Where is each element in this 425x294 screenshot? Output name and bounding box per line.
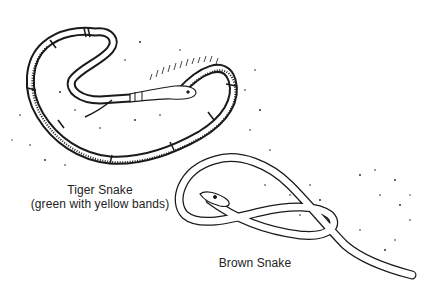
tiger-snake-description: (green with yellow bands) — [0, 197, 200, 211]
snake-illustration — [0, 0, 425, 294]
tiger-snake-name: Tiger Snake — [0, 183, 200, 197]
brown-snake-caption: Brown Snake — [205, 256, 305, 270]
brown-snake-name: Brown Snake — [205, 256, 305, 270]
tiger-snake-drawing — [27, 28, 236, 164]
tiger-snake-caption: Tiger Snake (green with yellow bands) — [0, 183, 200, 211]
